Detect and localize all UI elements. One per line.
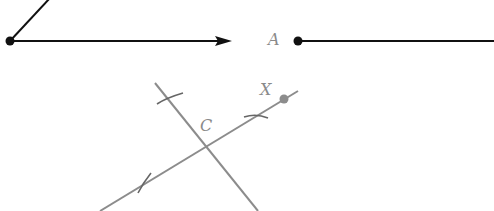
angle-vertex-point bbox=[6, 37, 15, 46]
line-through-X bbox=[100, 91, 298, 211]
angle-ray-upper bbox=[10, 0, 50, 41]
perpendicular-line bbox=[155, 83, 258, 211]
label-A: A bbox=[268, 32, 280, 48]
arc-mark-lower-left bbox=[138, 173, 151, 193]
geometry-construction bbox=[0, 0, 494, 211]
label-X: X bbox=[260, 82, 271, 98]
label-C: C bbox=[200, 118, 212, 134]
point-A bbox=[294, 37, 303, 46]
point-X bbox=[280, 95, 289, 104]
